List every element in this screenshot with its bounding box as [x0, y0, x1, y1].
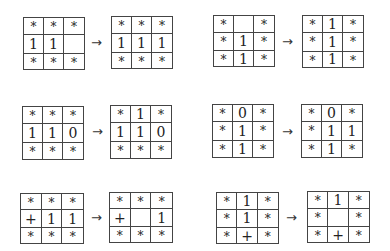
grid-cell: 1: [131, 106, 151, 123]
grid-cell: *: [44, 18, 64, 35]
grid-cell: *: [217, 193, 237, 210]
grid-cell: *: [151, 142, 171, 158]
grid-cell: *: [308, 209, 328, 227]
grid-cell: *: [112, 53, 132, 68]
grid-cell: 0: [63, 124, 83, 143]
grid-cell: *: [303, 52, 323, 67]
grid-cell: 1: [233, 141, 253, 157]
arrow-icon: →: [91, 210, 102, 225]
grid-cell: +: [110, 209, 131, 227]
grid-cell: *: [24, 18, 44, 35]
grid-before: ***11***: [23, 17, 85, 70]
grid-before: ***+11***: [20, 193, 84, 244]
grid-after: *1*110***: [110, 105, 172, 159]
grid-cell: 1: [43, 124, 63, 143]
grid-cell: *: [151, 106, 171, 123]
grid-cell: *: [131, 227, 152, 242]
grid-cell: *: [213, 105, 233, 122]
grid-cell: *: [151, 227, 172, 242]
grid-cell: *: [342, 141, 362, 157]
arrow-icon: →: [92, 124, 103, 139]
grid-cell: *: [44, 54, 64, 69]
grid-cell: *: [302, 122, 322, 141]
grid-before: ***110***: [22, 106, 84, 160]
grid-cell: [131, 209, 152, 227]
grid-cell: *: [151, 193, 172, 209]
grid-cell: *: [131, 142, 151, 158]
grid-cell: *: [213, 122, 233, 141]
grid-cell: +: [328, 227, 348, 242]
grid-cell: 1: [111, 123, 131, 142]
grid-after: *1**1**1*: [302, 15, 364, 68]
grid-cell: 1: [322, 141, 342, 157]
grid-cell: *: [214, 16, 234, 33]
grid-cell: *: [23, 107, 43, 124]
grid-cell: *: [111, 142, 131, 158]
grid-cell: *: [253, 105, 273, 122]
grid-cell: [64, 35, 84, 54]
grid-cell: *: [213, 141, 233, 157]
grid-cell: 1: [328, 192, 348, 209]
grid-cell: [328, 209, 348, 227]
grid-cell: *: [132, 17, 152, 34]
grid-cell: 1: [323, 33, 343, 52]
grid-cell: *: [21, 228, 42, 243]
grid-cell: *: [110, 193, 131, 209]
grid-cell: *: [64, 18, 84, 35]
grid-cell: *: [23, 143, 43, 159]
grid-cell: 1: [24, 35, 44, 54]
grid-cell: +: [237, 228, 257, 243]
grid-cell: *: [24, 54, 44, 69]
grid-cell: 0: [151, 123, 171, 142]
grid-cell: *: [308, 192, 328, 209]
grid-cell: +: [21, 210, 42, 228]
grid-cell: 1: [62, 210, 83, 228]
grid-cell: *: [214, 33, 234, 51]
grid-cell: *: [258, 210, 278, 228]
grid-cell: *: [43, 107, 63, 124]
grid-before: ***1**1*: [213, 15, 275, 67]
grid-cell: 0: [322, 105, 342, 122]
grid-after: *1****+*: [307, 191, 370, 243]
grid-after: *0**11*1*: [301, 104, 363, 158]
grid-cell: *: [303, 33, 323, 52]
grid-cell: 1: [151, 209, 172, 227]
grid-cell: *: [253, 122, 273, 141]
grid-cell: *: [254, 33, 274, 51]
grid-cell: *: [132, 53, 152, 68]
grid-cell: *: [349, 227, 369, 242]
grid-cell: 1: [323, 52, 343, 67]
grid-cell: 1: [233, 122, 253, 141]
grid-cell: *: [62, 228, 83, 243]
grid-cell: *: [342, 105, 362, 122]
arrow-icon: →: [282, 124, 293, 139]
grid-cell: 1: [42, 210, 63, 228]
grid-cell: *: [217, 210, 237, 228]
grid-cell: 1: [23, 124, 43, 143]
grid-cell: 0: [233, 105, 253, 122]
grid-cell: 1: [152, 34, 172, 53]
grid-cell: 1: [323, 16, 343, 33]
arrow-icon: →: [282, 34, 293, 49]
grid-cell: *: [64, 54, 84, 69]
grid-cell: *: [302, 105, 322, 122]
grid-cell: *: [217, 228, 237, 243]
grid-cell: 1: [112, 34, 132, 53]
grid-cell: *: [42, 194, 63, 210]
grid-cell: *: [62, 194, 83, 210]
grid-cell: *: [302, 141, 322, 157]
grid-cell: *: [343, 52, 363, 67]
grid-cell: *: [258, 193, 278, 210]
grid-cell: [234, 16, 254, 33]
grid-cell: *: [254, 51, 274, 66]
grid-cell: *: [258, 228, 278, 243]
grid-cell: *: [303, 16, 323, 33]
grid-cell: *: [349, 192, 369, 209]
grid-after: ***+1***: [109, 192, 173, 243]
grid-cell: *: [110, 227, 131, 242]
grid-cell: *: [343, 33, 363, 52]
grid-before: *1**1**+*: [216, 192, 279, 244]
grid-cell: 1: [44, 35, 64, 54]
grid-cell: *: [343, 16, 363, 33]
grid-cell: *: [308, 227, 328, 242]
